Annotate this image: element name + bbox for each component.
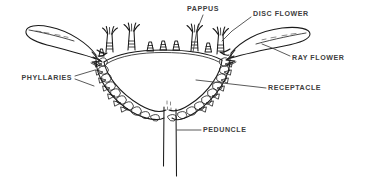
leader-phyllaries-upper — [75, 70, 95, 76]
pappus-bristles — [103, 27, 118, 35]
disc-flower-tall — [187, 24, 203, 51]
peduncle-stalk — [164, 101, 177, 176]
botanical-diagram: PAPPUS DISC FLOWER RAY FLOWER PHYLLARIES… — [0, 0, 370, 187]
disc-flower-tall — [103, 27, 118, 53]
disc-flower-bud — [147, 42, 154, 51]
pappus-bristles — [187, 24, 203, 32]
label-group: PAPPUS DISC FLOWER RAY FLOWER PHYLLARIES… — [22, 5, 345, 134]
pappus-bristles — [213, 27, 229, 35]
label-phyllaries: PHYLLARIES — [22, 74, 72, 82]
disc-flower-bud — [160, 41, 167, 50]
leader-receptacle — [196, 80, 266, 88]
disc-flower-row — [99, 23, 229, 56]
ray-flower-left — [26, 26, 102, 62]
disc-flower-tall — [124, 23, 140, 50]
leader-disc-flower — [222, 17, 251, 41]
label-disc-flower: DISC FLOWER — [253, 10, 309, 18]
label-peduncle: PEDUNCLE — [203, 126, 246, 134]
label-receptacle: RECEPTACLE — [268, 84, 321, 92]
disc-flower-bud — [205, 43, 212, 52]
disc-flower-tall — [213, 27, 229, 54]
pappus-bristles — [124, 23, 140, 31]
label-ray-flower: RAY FLOWER — [292, 54, 344, 62]
disc-flower-bud — [173, 41, 180, 50]
flower-head-figure: PAPPUS DISC FLOWER RAY FLOWER PHYLLARIES… — [0, 0, 370, 187]
label-pappus: PAPPUS — [187, 5, 219, 13]
leader-phyllaries-lower — [75, 79, 94, 86]
